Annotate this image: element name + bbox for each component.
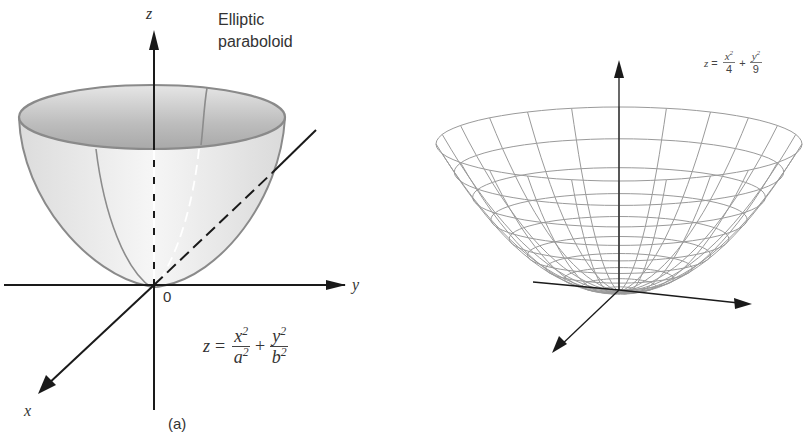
elliptic-paraboloid-figure-a [4, 30, 346, 410]
paraboloid-rim [19, 85, 285, 149]
den-4: 4 [726, 63, 732, 75]
x-axis-label: x [24, 402, 31, 420]
num-y: y [272, 326, 280, 346]
b-x-axis-arrowhead [552, 336, 567, 353]
b-y-axis-arrowhead [734, 298, 752, 309]
eq-plus: + [739, 57, 745, 69]
exp: 2 [280, 325, 286, 338]
z-axis-label: z [146, 5, 152, 23]
den-b: b [272, 347, 281, 367]
den-9: 9 [753, 63, 759, 75]
equation-specific: z = x2 4 + y2 9 [704, 50, 764, 75]
figure-canvas [0, 0, 811, 448]
y-axis-arrowhead [326, 280, 346, 290]
eq-equals: = [215, 336, 225, 357]
exp: 2 [281, 346, 287, 359]
fraction-x-over-a: x2 a2 [232, 326, 250, 368]
exp: 2 [757, 49, 761, 57]
fraction-y-over-b: y2 b2 [270, 326, 288, 368]
equation-general: z = x2 a2 + y2 b2 [203, 326, 290, 368]
figure-caption: (a) [168, 415, 186, 432]
mesh-meridian [442, 154, 619, 293]
mesh-paraboloid-figure-b [436, 60, 802, 353]
b-z-axis-arrowhead [614, 60, 624, 78]
fraction-x-over-4: x2 4 [723, 50, 735, 75]
fraction-y-over-9: y2 9 [750, 50, 762, 75]
exp: 2 [243, 346, 249, 359]
x-axis-front [46, 285, 154, 386]
exp: 2 [730, 49, 734, 57]
mesh-meridian [572, 108, 619, 292]
figure-title: Elliptic paraboloid [218, 9, 293, 53]
eq-plus: + [255, 336, 265, 357]
mesh-meridian [619, 108, 666, 292]
eq-lhs: z [203, 336, 210, 357]
title-line-1: Elliptic [218, 9, 293, 31]
title-line-2: paraboloid [218, 31, 293, 53]
exp: 2 [242, 325, 248, 338]
z-axis-arrowhead [149, 30, 159, 50]
b-y-axis [619, 290, 748, 304]
y-axis-label: y [352, 276, 359, 294]
den-a: a [234, 347, 243, 367]
mesh-meridian [619, 154, 796, 293]
b-x-axis [558, 290, 619, 348]
eq-equals: = [711, 57, 717, 69]
num-x: x [234, 326, 242, 346]
eq-lhs: z [704, 57, 708, 69]
origin-label: 0 [163, 288, 171, 305]
